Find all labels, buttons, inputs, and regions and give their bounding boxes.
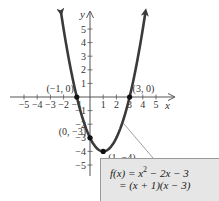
x-tick-label: −3 [45,99,56,110]
point-marker [87,135,92,140]
y-axis-label: y [79,8,85,20]
point-label: (0, −3) [59,126,86,138]
x-tick-label: 1 [101,99,106,110]
point-label: (3, 0) [133,83,155,95]
function-formula-box: f(x) = x2 − 2x − 3 = (x + 1)(x − 3) [100,158,219,201]
key-points: (−1, 0)(3, 0)(0, −3)(1, −4) [46,83,154,164]
x-tick-label: 2 [114,99,119,110]
formula-line-standard-form: f(x) = x2 − 2x − 3 [110,165,189,179]
y-tick-label: 4 [81,37,86,48]
formula-suffix: − 2x − 3 [147,167,189,179]
point-marker [74,94,79,99]
x-tick-label: −4 [32,99,43,110]
point-label: (−1, 0) [46,83,73,95]
y-tick-label: 3 [81,51,86,62]
formula-line-factored-form: = (x + 1)(x − 3) [119,179,190,191]
point-marker [101,149,106,154]
y-tick-label: −4 [75,146,86,157]
formula-prefix: f(x) = x [110,167,143,179]
x-tick-label: −2 [58,99,69,110]
y-tick-label: 1 [81,78,86,89]
x-tick-label: −5 [19,99,30,110]
x-axis-label: x [164,99,170,111]
y-tick-label: −5 [75,160,86,171]
y-tick-label: 2 [81,64,86,75]
y-tick-label: 5 [81,24,86,35]
point-marker [127,94,132,99]
x-tick-label: 4 [140,99,145,110]
x-tick-label: 5 [154,99,159,110]
